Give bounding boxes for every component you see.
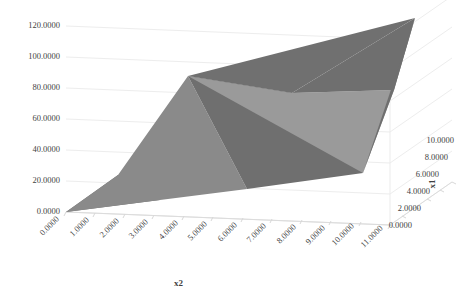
x2-axis-title: x2	[174, 279, 183, 288]
z-tick-label: 120.0000	[2, 21, 60, 30]
x1-tick-label: 4.0000	[380, 187, 430, 196]
surface-mesh[interactable]	[66, 18, 415, 212]
z-tick-label: 100.0000	[2, 52, 60, 61]
x1-tick-label: 2.0000	[371, 204, 421, 213]
z-tick-label: 40.0000	[2, 145, 60, 154]
x1-axis-title: x1	[428, 175, 437, 189]
chart-plot-area[interactable]	[0, 0, 465, 302]
x1-tick-label: 10.0000	[404, 136, 454, 145]
z-tick-label: 60.0000	[2, 114, 60, 123]
z-tick-label: 0.0000	[2, 207, 60, 216]
surface-chart[interactable]: 0.0000 20.0000 40.0000 60.0000 80.0000 1…	[0, 0, 465, 302]
z-tick-label: 80.0000	[2, 83, 60, 92]
z-tick-label: 20.0000	[2, 176, 60, 185]
x1-tick-label: 8.0000	[398, 153, 448, 162]
x1-tick-label: 0.0000	[362, 221, 412, 230]
